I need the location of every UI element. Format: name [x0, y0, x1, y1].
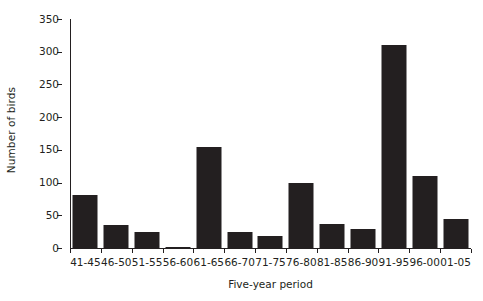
- x-tick-label: 41-45: [70, 256, 101, 269]
- x-tick-mark: [440, 249, 441, 253]
- x-axis-title: Five-year period: [70, 278, 471, 290]
- y-tick-label: 200: [39, 112, 59, 123]
- x-tick-label: 51-55: [132, 256, 163, 269]
- x-tick-mark: [317, 249, 318, 253]
- bar[interactable]: [258, 236, 283, 248]
- y-tick-mark: [57, 215, 62, 216]
- bar[interactable]: [289, 183, 314, 248]
- y-tick-label: 150: [39, 144, 59, 155]
- bar-slot: [255, 19, 286, 248]
- y-tick-mark: [57, 19, 62, 20]
- y-tick-mark: [57, 117, 62, 118]
- x-tick-mark: [193, 249, 194, 253]
- bar[interactable]: [227, 232, 252, 248]
- y-tick-label: 300: [39, 46, 59, 57]
- x-tick-mark: [132, 249, 133, 253]
- x-tick-mark: [101, 249, 102, 253]
- bar-slot: [193, 19, 224, 248]
- x-tick-mark: [286, 249, 287, 253]
- bar[interactable]: [196, 147, 221, 248]
- x-tick-label: 76-80: [286, 256, 317, 269]
- bar-slot: [224, 19, 255, 248]
- x-tick-mark: [224, 249, 225, 253]
- x-tick-label: 56-60: [163, 256, 194, 269]
- y-tick-label: 100: [39, 177, 59, 188]
- x-axis-ticks: [70, 249, 471, 254]
- bar[interactable]: [73, 195, 98, 248]
- x-tick-mark: [471, 249, 472, 253]
- x-tick-mark: [70, 249, 71, 253]
- y-tick-mark: [57, 248, 62, 249]
- bar-slot: [409, 19, 440, 248]
- x-axis-tick-labels: 41-4546-5051-5556-6061-6566-7071-7576-80…: [70, 256, 471, 272]
- bar[interactable]: [381, 45, 406, 248]
- x-tick-label: 71-75: [255, 256, 286, 269]
- plot-area-bars: [70, 19, 471, 248]
- y-tick-mark: [57, 52, 62, 53]
- x-tick-mark: [378, 249, 379, 253]
- x-tick-mark: [409, 249, 410, 253]
- bar-slot: [101, 19, 132, 248]
- x-tick-label: 01-05: [440, 256, 471, 269]
- x-tick-label: 91-95: [379, 256, 410, 269]
- y-tick-mark: [57, 183, 62, 184]
- bar-slot: [317, 19, 348, 248]
- y-tick-mark: [57, 84, 62, 85]
- bar[interactable]: [135, 232, 160, 248]
- bar[interactable]: [104, 225, 129, 248]
- x-tick-label: 86-90: [348, 256, 379, 269]
- x-tick-label: 81-85: [317, 256, 348, 269]
- bar-slot: [286, 19, 317, 248]
- bar[interactable]: [351, 229, 376, 248]
- bar-slot: [378, 19, 409, 248]
- bar-slot: [132, 19, 163, 248]
- x-tick-label: 66-70: [224, 256, 255, 269]
- bar-slot: [348, 19, 379, 248]
- x-tick-label: 46-50: [101, 256, 132, 269]
- bar-slot: [163, 19, 194, 248]
- x-tick-mark: [163, 249, 164, 253]
- bar-slot: [440, 19, 471, 248]
- bar-chart-figure: Number of birds 050100150200250300350 41…: [0, 0, 483, 301]
- bar-slot: [70, 19, 101, 248]
- x-tick-label: 61-65: [194, 256, 225, 269]
- x-tick-mark: [348, 249, 349, 253]
- x-tick-mark: [255, 249, 256, 253]
- bar[interactable]: [412, 176, 437, 248]
- y-tick-mark: [57, 150, 62, 151]
- y-axis-ticks: 050100150200250300350: [0, 0, 70, 301]
- y-tick-label: 350: [39, 14, 59, 25]
- bar[interactable]: [443, 219, 468, 248]
- y-tick-label: 250: [39, 79, 59, 90]
- bar[interactable]: [320, 224, 345, 248]
- x-tick-label: 96-00: [409, 256, 440, 269]
